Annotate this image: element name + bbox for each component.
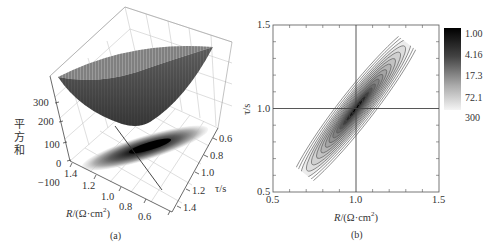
panel-b-label: (b) [351, 229, 363, 240]
tau-tick-1.0: 1.0 [201, 168, 214, 179]
z-tick-0: 0 [56, 159, 61, 170]
y-tick-1.5: 1.5 [257, 20, 270, 31]
r-tick-0.6: 0.6 [138, 212, 151, 223]
x-tick-1.0: 1.0 [349, 195, 362, 206]
y-axis-label: τ/s [242, 104, 253, 115]
z-tick-300: 300 [33, 98, 49, 109]
tau-tick-0.6: 0.6 [219, 134, 232, 145]
r-axis-label: R/(Ω·cm2) [66, 207, 110, 219]
sum-of-squares-surface [58, 46, 213, 126]
tau-tick-0.8: 0.8 [210, 151, 223, 162]
colorbar-tick-3: 17.3 [465, 71, 483, 81]
r-tick-0.8: 0.8 [119, 202, 132, 213]
colorbar-tick-2: 4.16 [465, 50, 483, 60]
x-tick-1.5: 1.5 [432, 195, 445, 206]
colorbar-tick-1: 1.00 [465, 29, 483, 39]
r-tick-1.4: 1.4 [64, 169, 77, 180]
r-tick-1.0: 1.0 [101, 192, 114, 203]
y-tick-1.0: 1.0 [257, 104, 270, 115]
colorbar [444, 28, 461, 110]
z-tick-200: 200 [38, 117, 54, 128]
z-axis-label: 平方和 [14, 118, 26, 157]
z-tick-100: 100 [44, 140, 60, 151]
x-axis-label: R/(Ω·cm2) [334, 211, 378, 223]
colorbar-tick-4: 72.1 [465, 93, 483, 103]
tau-tick-1.4: 1.4 [183, 203, 196, 214]
z-tick-minus100: −100 [38, 178, 60, 189]
projected-contour [78, 117, 211, 179]
tau-tick-1.2: 1.2 [192, 186, 205, 197]
colorbar-tick-5: 300 [465, 113, 480, 123]
panel-a-label: (a) [110, 230, 121, 241]
r-tick-1.2: 1.2 [82, 181, 95, 192]
x-tick-0.5: 0.5 [266, 195, 279, 206]
tau-axis-label: τ/s [215, 184, 226, 195]
